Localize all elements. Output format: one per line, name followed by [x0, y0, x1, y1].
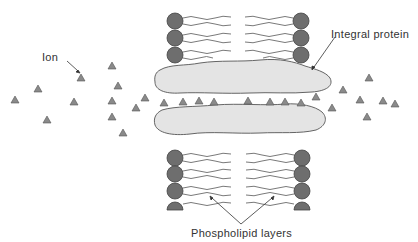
phospholipid-heads-top — [167, 13, 309, 63]
phospholipid-layers-label: Phospholipid layers — [191, 227, 292, 239]
integral-protein-label: Integral protein — [331, 28, 409, 40]
phospholipid-tails-top — [183, 16, 293, 59]
integral-protein-lower — [154, 104, 325, 135]
phospholipid-heads-bottom — [167, 150, 310, 210]
integral-protein-upper — [155, 59, 331, 93]
membrane-diagram: Ion Integral protein Phospholipid layers — [0, 0, 418, 242]
phospholipid-tails-bottom — [183, 153, 294, 205]
ion-label: Ion — [42, 51, 58, 63]
